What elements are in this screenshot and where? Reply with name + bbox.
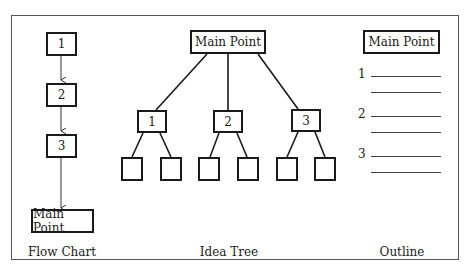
flow-main-point-label: Main Point <box>33 207 92 235</box>
tree-root: Main Point <box>190 30 266 54</box>
flow-step-1: 1 <box>46 32 77 56</box>
outline-line <box>371 116 441 117</box>
tree-leaf <box>276 157 298 181</box>
tree-leaf <box>160 157 182 181</box>
tree-leaf <box>198 157 220 181</box>
outline-item-3-number: 3 <box>358 147 366 161</box>
flow-step-2-label: 2 <box>58 88 66 102</box>
outline-item-1-number: 1 <box>358 67 366 81</box>
outline-line <box>371 156 441 157</box>
outline-caption: Outline <box>380 245 425 259</box>
flow-step-3: 3 <box>46 134 77 158</box>
flow-step-2: 2 <box>46 83 77 107</box>
tree-leaf <box>237 157 259 181</box>
outline-line <box>371 132 441 133</box>
tree-branch-2-label: 2 <box>224 115 232 129</box>
idea-tree-caption: Idea Tree <box>200 245 258 259</box>
tree-root-label: Main Point <box>195 35 261 49</box>
outline-item-2-number: 2 <box>358 107 366 121</box>
tree-leaf <box>121 157 143 181</box>
outline-main-point-label: Main Point <box>368 35 434 49</box>
outline-line <box>371 92 441 93</box>
outline-line <box>371 76 441 77</box>
outline-main-point: Main Point <box>363 30 440 54</box>
flow-step-3-label: 3 <box>58 139 66 153</box>
tree-branch-1-label: 1 <box>148 115 156 129</box>
flow-chart-caption: Flow Chart <box>28 245 96 259</box>
outline-line <box>371 172 441 173</box>
tree-branch-3-label: 3 <box>302 114 310 128</box>
tree-branch-1: 1 <box>137 110 167 133</box>
flow-main-point: Main Point <box>31 209 94 233</box>
flow-step-1-label: 1 <box>58 37 66 51</box>
tree-leaf <box>314 157 336 181</box>
tree-branch-2: 2 <box>213 110 243 133</box>
tree-branch-3: 3 <box>291 109 321 132</box>
